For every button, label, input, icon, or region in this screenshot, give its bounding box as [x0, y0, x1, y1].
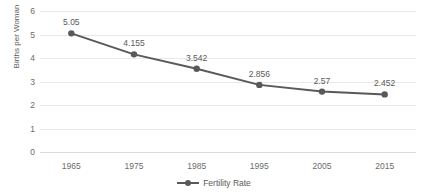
y-tick-label-6: 6: [30, 7, 35, 16]
y-tick-label-0: 0: [30, 148, 35, 157]
data-label-1995: 2.856: [249, 69, 270, 78]
data-point-2005: [319, 88, 325, 94]
x-tick-label-1965: 1965: [62, 162, 81, 171]
data-point-2015: [381, 91, 387, 97]
data-label-1975: 4.155: [123, 39, 144, 48]
x-tick-label-2005: 2005: [313, 162, 332, 171]
data-point-1965: [68, 30, 74, 36]
x-tick-label-1995: 1995: [250, 162, 269, 171]
data-point-1995: [256, 82, 262, 88]
series-line: [71, 33, 384, 94]
legend-marker-icon: [177, 179, 199, 187]
x-tick-label-1985: 1985: [187, 162, 206, 171]
data-label-1965: 5.05: [63, 18, 80, 27]
y-axis-title: Births per Woman: [12, 0, 21, 97]
y-tick-label-2: 2: [30, 101, 35, 110]
y-tick-label-1: 1: [30, 124, 35, 133]
series-fertility-rate: [40, 11, 416, 152]
legend-label-fertility-rate: Fertility Rate: [203, 178, 251, 188]
data-label-2015: 2.452: [374, 79, 395, 88]
gridline-0: [40, 152, 416, 153]
chart-legend: Fertility Rate: [0, 178, 428, 188]
x-tick-label-2015: 2015: [375, 162, 394, 171]
y-tick-label-4: 4: [30, 54, 35, 63]
data-point-1975: [131, 51, 137, 57]
y-tick-label-5: 5: [30, 30, 35, 39]
data-label-1985: 3.542: [186, 53, 207, 62]
plot-area: 0123456 196519751985199520052015 5.054.1…: [40, 11, 416, 152]
data-point-1985: [193, 66, 199, 72]
x-tick-label-1975: 1975: [125, 162, 144, 171]
chart-title: [24, 0, 404, 4]
y-tick-label-3: 3: [30, 77, 35, 86]
fertility-rate-line-chart: Births per Woman 0123456 196519751985199…: [0, 0, 428, 196]
data-label-2005: 2.57: [314, 76, 331, 85]
